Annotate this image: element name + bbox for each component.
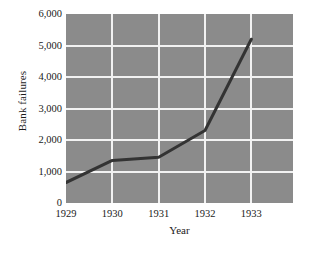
x-axis-title: Year [66,224,293,236]
y-tick-label: 2,000 [4,135,62,145]
y-tick-label: 6,000 [4,9,62,19]
x-tick-label: 1933 [221,207,281,220]
y-tick-label: 5,000 [4,41,62,51]
bank-failures-line-chart: Bank failures 01,0002,0003,0004,0005,000… [0,0,312,255]
series-line-bank-failures [66,14,293,203]
y-tick-label: 3,000 [4,104,62,114]
y-tick-label: 1,000 [4,167,62,177]
y-tick-label: 4,000 [4,72,62,82]
plot-area [66,14,293,203]
